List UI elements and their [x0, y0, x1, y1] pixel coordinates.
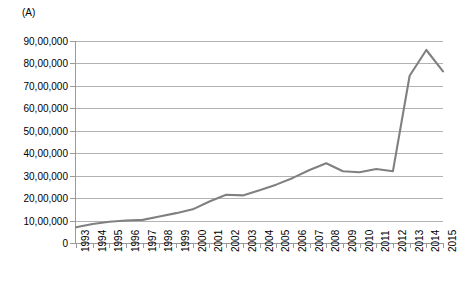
x-axis-tick [260, 243, 261, 248]
x-axis-tick [293, 243, 294, 248]
x-axis-tick-label: 1998 [163, 230, 174, 252]
y-axis-tick [70, 131, 76, 132]
chart-figure: (A) 90,00,00080,00,00070,00,00060,00,000… [0, 0, 470, 299]
gridline [76, 221, 443, 222]
y-axis-tick-label: 90,00,000 [0, 36, 68, 47]
y-axis-tick [70, 221, 76, 222]
x-axis-tick [360, 243, 361, 248]
x-axis-tick-label: 2009 [347, 230, 358, 252]
x-axis-tick-label: 1997 [147, 230, 158, 252]
y-axis-tick [70, 176, 76, 177]
gridline [76, 153, 443, 154]
x-axis-tick-label: 2002 [230, 230, 241, 252]
x-axis-tick [209, 243, 210, 248]
y-axis-tick [70, 41, 76, 42]
series-line [0, 0, 470, 299]
gridline [76, 63, 443, 64]
x-axis-tick [109, 243, 110, 248]
y-axis-tick-label: 20,00,000 [0, 193, 68, 204]
y-axis-tick [70, 108, 76, 109]
x-axis-tick [76, 243, 77, 248]
y-axis-tick-label: 80,00,000 [0, 58, 68, 69]
y-axis-tick-label: 0 [0, 238, 68, 249]
x-axis-tick-label: 2012 [397, 230, 408, 252]
x-axis-tick [410, 243, 411, 248]
y-axis-tick-label: 60,00,000 [0, 103, 68, 114]
x-axis-tick [176, 243, 177, 248]
y-axis-tick-label: 70,00,000 [0, 80, 68, 91]
x-axis-tick [93, 243, 94, 248]
x-axis-tick-label: 2000 [197, 230, 208, 252]
x-axis-tick [326, 243, 327, 248]
gridline [76, 131, 443, 132]
gridline [76, 86, 443, 87]
x-axis-tick-label: 1993 [80, 230, 91, 252]
x-axis-tick-label: 2003 [247, 230, 258, 252]
x-axis-tick [143, 243, 144, 248]
y-axis-tick-label: 40,00,000 [0, 148, 68, 159]
x-axis-tick-label: 1994 [97, 230, 108, 252]
x-axis-tick [393, 243, 394, 248]
x-axis-tick [443, 243, 444, 248]
x-axis-tick [426, 243, 427, 248]
x-axis-tick [126, 243, 127, 248]
x-axis-tick-label: 2001 [213, 230, 224, 252]
x-axis-tick-label: 2013 [414, 230, 425, 252]
x-axis-tick-label: 1995 [113, 230, 124, 252]
x-axis-tick [243, 243, 244, 248]
x-axis-tick [310, 243, 311, 248]
x-axis-tick [193, 243, 194, 248]
y-axis-tick-label: 50,00,000 [0, 125, 68, 136]
x-axis-tick [226, 243, 227, 248]
x-axis-tick-label: 2004 [264, 230, 275, 252]
x-axis-tick-label: 2011 [380, 230, 391, 252]
x-axis-tick-label: 2006 [297, 230, 308, 252]
panel-label: (A) [22, 7, 35, 18]
y-axis-tick [70, 63, 76, 64]
gridline [76, 198, 443, 199]
gridline [76, 108, 443, 109]
x-axis-tick-label: 1999 [180, 230, 191, 252]
x-axis-tick-label: 2005 [280, 230, 291, 252]
x-axis-tick [343, 243, 344, 248]
y-axis-line [75, 41, 76, 244]
x-axis-tick-label: 2010 [364, 230, 375, 252]
y-axis-tick [70, 153, 76, 154]
y-axis-tick-label: 10,00,000 [0, 215, 68, 226]
gridline [76, 41, 443, 42]
x-axis-tick-label: 1996 [130, 230, 141, 252]
x-axis-tick [159, 243, 160, 248]
x-axis-tick-label: 2015 [447, 230, 458, 252]
y-axis-tick [70, 198, 76, 199]
x-axis-tick [276, 243, 277, 248]
y-axis-tick [70, 86, 76, 87]
y-axis-tick-label: 30,00,000 [0, 170, 68, 181]
x-axis-tick-label: 2014 [430, 230, 441, 252]
x-axis-tick-label: 2007 [314, 230, 325, 252]
x-axis-tick [376, 243, 377, 248]
x-axis-tick-label: 2008 [330, 230, 341, 252]
gridline [76, 176, 443, 177]
